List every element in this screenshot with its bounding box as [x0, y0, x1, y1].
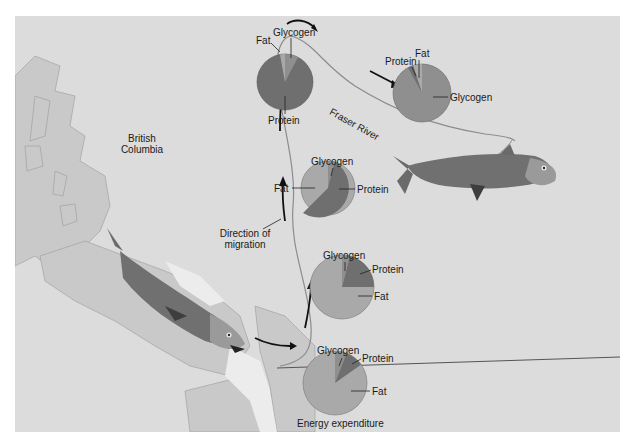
region-label-british-columbia: British Columbia	[112, 133, 172, 155]
direction-of-migration-label: Direction of migration	[213, 228, 277, 250]
pie5-glycogen-label: Glycogen	[450, 92, 492, 103]
pie4-glycogen-label: Glycogen	[273, 27, 315, 38]
direction-label-line1: Direction of	[213, 228, 277, 239]
pie3-fat-label: Fat	[274, 183, 288, 194]
pie4-fat-label: Fat	[256, 35, 270, 46]
direction-label-line2: migration	[213, 239, 277, 250]
region-label-line2: Columbia	[112, 144, 172, 155]
pie5-fat-label: Fat	[415, 48, 429, 59]
pie1-protein-label: Protein	[362, 353, 394, 364]
region-label-line1: British	[112, 133, 172, 144]
pie1-fat-label: Fat	[372, 386, 386, 397]
pie4-protein-label: Protein	[268, 115, 300, 126]
salmon-migration-figure: British Columbia Fraser River Direction …	[15, 16, 620, 432]
caption-energy-expenditure: Energy expenditure	[297, 418, 384, 429]
spawning-salmon-illustration	[393, 144, 556, 201]
pie2-protein-label: Protein	[372, 264, 404, 275]
pie2-fat-label: Fat	[374, 291, 388, 302]
pie3-protein-label: Protein	[357, 184, 389, 195]
pie3-glycogen-label: Glycogen	[311, 156, 353, 167]
pie5-protein-label: Protein	[385, 56, 417, 67]
pie1-glycogen-label: Glycogen	[317, 345, 359, 356]
pie-stage-5	[393, 64, 451, 122]
map-artwork	[15, 16, 620, 432]
pie-stage-2	[310, 255, 374, 319]
pie2-glycogen-label: Glycogen	[323, 250, 365, 261]
